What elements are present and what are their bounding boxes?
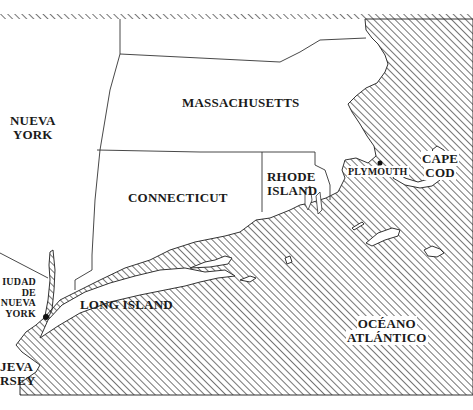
label-ciudad-line3: NUEVA bbox=[0, 298, 36, 309]
new-england-map bbox=[0, 0, 473, 410]
label-nueva-york: NUEVA YORK bbox=[10, 114, 56, 141]
label-connecticut: CONNECTICUT bbox=[128, 191, 228, 205]
label-oceano-line2: ATLÁNTICO bbox=[346, 330, 428, 345]
label-rhode-island-line1: RHODE bbox=[267, 170, 317, 184]
label-nueva-york-line1: NUEVA bbox=[10, 114, 56, 128]
label-oceano-line1: OCÉANO bbox=[357, 316, 417, 331]
label-ciudad-line1: IUDAD bbox=[0, 277, 36, 288]
label-rhode-island: RHODE ISLAND bbox=[267, 170, 317, 197]
label-plymouth-text: PLYMOUTH bbox=[347, 166, 409, 177]
label-oceano-atlantico: OCÉANO ATLÁNTICO bbox=[346, 317, 428, 344]
label-ciudad-line4: YORK bbox=[0, 309, 36, 320]
label-nueva-jersey-line2: RSEY bbox=[0, 374, 35, 388]
nyc-marker bbox=[43, 314, 49, 320]
label-cape-cod-line1: CAPE bbox=[421, 151, 459, 166]
label-massachusetts: MASSACHUSETTS bbox=[182, 96, 299, 110]
label-rhode-island-line2: ISLAND bbox=[267, 184, 317, 198]
label-cape-cod: CAPE COD bbox=[421, 152, 459, 179]
label-nueva-jersey: JEVA RSEY bbox=[0, 360, 35, 387]
label-nueva-york-line2: YORK bbox=[10, 128, 56, 142]
label-nueva-jersey-line1: JEVA bbox=[0, 360, 35, 374]
label-long-island: LONG ISLAND bbox=[80, 298, 173, 312]
plymouth-marker bbox=[378, 161, 383, 166]
label-cape-cod-line2: COD bbox=[424, 165, 456, 180]
top-hatch-strip bbox=[0, 14, 473, 19]
label-ciudad-nueva-york: IUDAD DE NUEVA YORK bbox=[0, 277, 36, 319]
label-plymouth: PLYMOUTH bbox=[347, 167, 409, 178]
